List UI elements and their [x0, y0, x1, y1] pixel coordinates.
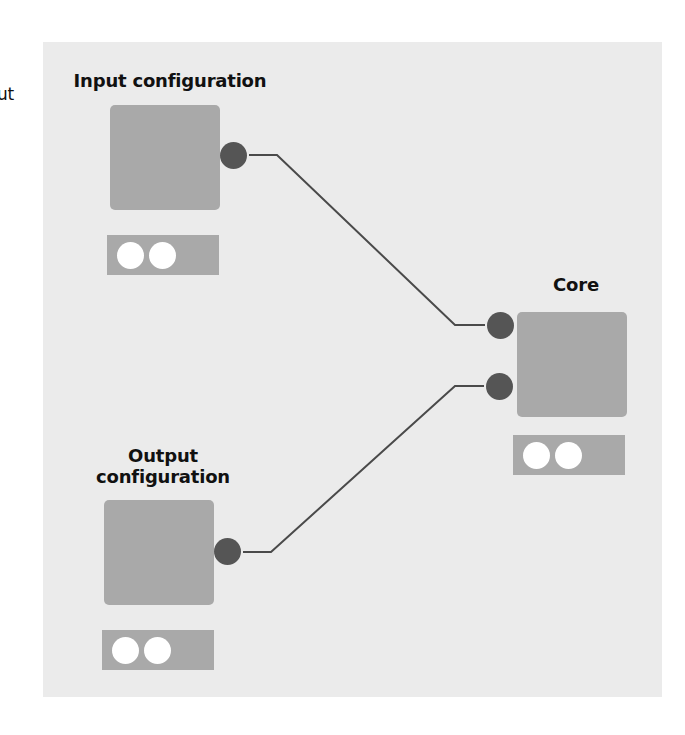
output-config-led-strip [102, 630, 214, 670]
input-config-box[interactable] [110, 105, 220, 210]
output-config-port[interactable] [214, 538, 241, 565]
output-config-label: Output configuration [63, 445, 263, 487]
input-config-label: Input configuration [70, 70, 270, 91]
output-config-label-line1: Output [63, 445, 263, 466]
led-indicator-icon [144, 637, 171, 664]
output-config-label-line2: configuration [63, 466, 263, 487]
input-config-led-strip [107, 235, 219, 275]
core-led-strip [513, 435, 625, 475]
led-indicator-icon [149, 242, 176, 269]
core-label: Core [526, 274, 626, 295]
output-config-box[interactable] [104, 500, 214, 605]
core-box[interactable] [517, 312, 627, 417]
input-config-port[interactable] [220, 142, 247, 169]
core-port-2[interactable] [486, 373, 513, 400]
led-indicator-icon [523, 442, 550, 469]
led-indicator-icon [555, 442, 582, 469]
led-indicator-icon [117, 242, 144, 269]
core-port-1[interactable] [487, 312, 514, 339]
led-indicator-icon [112, 637, 139, 664]
cut-off-label: ut [0, 84, 14, 104]
